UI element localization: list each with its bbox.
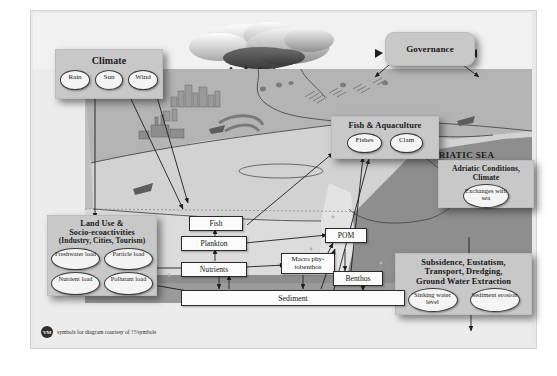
oval-clam[interactable]: Clam: [390, 133, 423, 153]
oval-fishes[interactable]: Fishes: [347, 133, 382, 153]
figure-canvas: ADRIATIC SEA Climate Rain Sun Wind Gover…: [0, 0, 557, 376]
oval-exchanges-with-sea[interactable]: Exchanges with sea: [463, 184, 509, 208]
symbols-logo-icon: VM: [41, 326, 53, 338]
box-macro-phytobenthos[interactable]: Macro phy-tobenthos: [281, 253, 335, 274]
panel-climate-title: Climate: [56, 50, 162, 66]
panel-fish-aquaculture: Fish & Aquaculture Fishes Clam: [331, 116, 439, 159]
figure-frame: ADRIATIC SEA Climate Rain Sun Wind Gover…: [30, 10, 537, 349]
credit-line: VM symbols for diagram courtesy of ??/sy…: [41, 326, 156, 338]
oval-particle-load[interactable]: Particle load: [104, 248, 153, 271]
panel-land-use-title-line1: Land Use &: [48, 216, 156, 228]
oval-nutrient-load[interactable]: Nutrient load: [51, 272, 100, 295]
oval-freshwater-load[interactable]: Freshwater load: [51, 248, 100, 271]
box-nutrients[interactable]: Nutrients: [181, 262, 247, 277]
oval-rain[interactable]: Rain: [60, 70, 90, 90]
panel-subsidence: Subsidence, Eustatism, Transport, Dredgi…: [395, 253, 532, 315]
oval-wind[interactable]: Wind: [128, 70, 158, 90]
panel-subsidence-title-line3: Ground Water Extraction: [396, 277, 531, 286]
oval-sun[interactable]: Sun: [95, 70, 123, 90]
panel-governance[interactable]: Governance: [385, 32, 475, 66]
panel-subsidence-title-line2: Transport, Dredging,: [396, 267, 531, 276]
oval-pollutant-load[interactable]: Pollutant load: [104, 272, 153, 295]
panel-land-use: Land Use & Socio-ecoactivities (Industry…: [47, 215, 157, 296]
panel-governance-title: Governance: [386, 33, 474, 54]
panel-adriatic-conditions-title-line1: Adriatic Conditions,: [439, 161, 533, 174]
oval-sediment-erosion[interactable]: Sediment erosion: [470, 288, 520, 312]
oval-sinking-water-level[interactable]: Sinking water level: [408, 288, 458, 312]
panel-climate: Climate Rain Sun Wind: [55, 49, 163, 99]
figure-frame-inner: ADRIATIC SEA Climate Rain Sun Wind Gover…: [33, 13, 532, 344]
credit-text: symbols for diagram courtesy of ??/symbo…: [57, 329, 156, 335]
panel-fish-aquaculture-title: Fish & Aquaculture: [332, 117, 438, 130]
box-plankton[interactable]: Plankton: [181, 236, 247, 251]
box-benthos[interactable]: Benthos: [333, 271, 383, 286]
box-pom[interactable]: POM: [325, 228, 367, 243]
panel-adriatic-conditions-title-line2: Climate: [439, 174, 533, 183]
box-sediment[interactable]: Sediment: [181, 290, 405, 306]
box-fish[interactable]: Fish: [189, 216, 243, 231]
panel-subsidence-title-line1: Subsidence, Eustatism,: [396, 254, 531, 267]
panel-adriatic-conditions: Adriatic Conditions, Climate Exchanges w…: [438, 160, 534, 208]
cloud-group: [189, 22, 334, 69]
panel-land-use-title-line3: (Industry, Cities, Tourism): [48, 237, 156, 245]
